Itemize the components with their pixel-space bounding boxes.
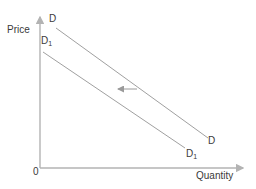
curve-label-d1-start: D1 (41, 35, 52, 47)
demand-shift-diagram: Price Quantity 0 D D1 D D1 (0, 0, 256, 189)
curve-label-d-start: D (49, 13, 56, 24)
x-axis-label: Quantity (196, 170, 233, 181)
curve-label-d-end: D (208, 135, 215, 146)
demand-curve-d (56, 28, 208, 138)
diagram-canvas (0, 0, 256, 189)
origin-label: 0 (33, 166, 39, 177)
y-axis-label: Price (7, 24, 30, 35)
curve-label-d1-end: D1 (186, 148, 197, 160)
demand-curve-d1 (43, 52, 185, 148)
curve-label-d1-start-subscript: 1 (48, 40, 52, 47)
curve-label-d1-end-subscript: 1 (193, 153, 197, 160)
